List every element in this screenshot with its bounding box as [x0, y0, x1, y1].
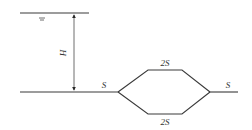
lower-branch-pipe: [118, 92, 210, 114]
head-label: H: [58, 49, 68, 57]
upper-branch-pipe: [118, 70, 210, 92]
pipe-diagram: H S 2S 2S S: [0, 0, 252, 130]
lower-branch-label: 2S: [161, 117, 171, 127]
outlet-pipe-label: S: [226, 80, 231, 90]
water-level-icon: [39, 18, 45, 20]
upper-branch-label: 2S: [161, 58, 171, 68]
inlet-pipe-label: S: [102, 80, 107, 90]
